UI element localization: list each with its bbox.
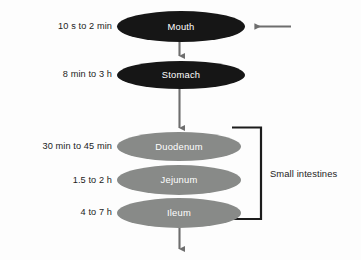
time-label-mouth: 10 s to 2 min	[58, 22, 112, 31]
organ-node-mouth: Mouth	[117, 11, 245, 42]
small-intestines-label: Small intestines	[270, 169, 337, 178]
organ-label-mouth: Mouth	[167, 22, 194, 31]
organ-node-stomach: Stomach	[117, 61, 245, 89]
time-label-jejunum: 1.5 to 2 h	[73, 176, 112, 185]
time-label-ileum: 4 to 7 h	[81, 208, 112, 217]
organ-label-jejunum: Jejunum	[161, 175, 198, 184]
organ-label-ileum: Ileum	[167, 208, 191, 217]
organ-label-duodenum: Duodenum	[155, 142, 202, 151]
time-label-duodenum: 30 min to 45 min	[42, 142, 112, 151]
organ-node-jejunum: Jejunum	[117, 165, 241, 195]
time-label-stomach: 8 min to 3 h	[63, 70, 112, 79]
organ-label-stomach: Stomach	[162, 70, 200, 79]
gi-transit-diagram: 10 s to 2 min 8 min to 3 h 30 min to 45 …	[0, 0, 361, 260]
organ-node-ileum: Ileum	[117, 198, 241, 228]
organ-node-duodenum: Duodenum	[117, 132, 241, 161]
